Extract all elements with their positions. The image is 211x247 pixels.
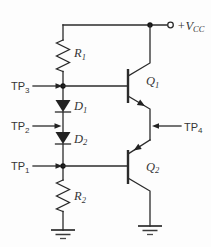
vcc-terminal-icon bbox=[168, 22, 174, 28]
tp3-label: TP3 bbox=[11, 80, 30, 95]
q1-label-main: Q bbox=[146, 74, 155, 88]
tp1-label-main: TP bbox=[11, 160, 25, 172]
ground-symbol-right bbox=[138, 226, 162, 235]
q2-label-sub: 2 bbox=[155, 165, 160, 175]
tp3-label-sub: 3 bbox=[25, 86, 30, 95]
r2-label-sub: 2 bbox=[82, 195, 87, 205]
test-point-tp2: TP2 bbox=[11, 120, 62, 135]
q2-collector-wire bbox=[128, 178, 150, 226]
resistor-r2-symbol bbox=[57, 180, 70, 212]
tp2-label-sub: 2 bbox=[25, 126, 30, 135]
d1-label: D1 bbox=[73, 99, 87, 115]
q1-collector-wire bbox=[128, 25, 150, 76]
d2-label-main: D bbox=[73, 132, 83, 146]
q1-label-sub: 1 bbox=[155, 80, 159, 90]
diode-d1: D1 bbox=[56, 99, 88, 115]
test-point-tp1: TP1 bbox=[11, 160, 66, 175]
tp4-arrowhead-icon bbox=[152, 123, 159, 129]
q1-emitter-arrow-icon bbox=[137, 99, 147, 108]
r1-label-sub: 1 bbox=[82, 52, 86, 62]
r2-label-main: R bbox=[73, 189, 82, 203]
tp2-label: TP2 bbox=[11, 120, 30, 135]
tp1-label-sub: 1 bbox=[25, 166, 30, 175]
vcc-label-main: +V bbox=[177, 19, 194, 33]
r1-label: R1 bbox=[73, 46, 86, 62]
resistor-r1: R1 bbox=[57, 40, 86, 72]
d2-label-sub: 2 bbox=[83, 137, 88, 147]
tp2-arrowhead-icon bbox=[55, 123, 62, 129]
q1-label: Q1 bbox=[146, 74, 159, 90]
q2-emitter-arrow-icon bbox=[132, 144, 142, 153]
transistor-q1: Q1 bbox=[63, 25, 159, 140]
transistor-q2: Q2 bbox=[63, 140, 160, 226]
d1-label-main: D bbox=[73, 99, 83, 113]
r2-label: R2 bbox=[73, 189, 87, 205]
vcc-label-sub: CC bbox=[193, 24, 205, 34]
vcc-label: +VCC bbox=[177, 19, 205, 35]
test-point-tp4: TP4 bbox=[152, 121, 203, 136]
q2-label-main: Q bbox=[146, 160, 155, 174]
diode-d1-symbol bbox=[56, 100, 71, 112]
tp3-label-main: TP bbox=[11, 80, 25, 92]
circuit-schematic-canvas: +VCC R1 TP3 D1 TP2 bbox=[0, 0, 211, 247]
d2-label: D2 bbox=[73, 132, 88, 148]
circuit-schematic: +VCC R1 TP3 D1 TP2 bbox=[0, 0, 211, 247]
power-rail: +VCC bbox=[63, 19, 205, 35]
d1-label-sub: 1 bbox=[83, 105, 87, 115]
tp2-label-main: TP bbox=[11, 120, 25, 132]
resistor-r1-symbol bbox=[57, 40, 70, 72]
q2-label: Q2 bbox=[146, 160, 160, 176]
resistor-r2: R2 bbox=[57, 180, 87, 212]
diode-d2-symbol bbox=[56, 132, 71, 144]
diode-d2: D2 bbox=[56, 132, 89, 148]
tp4-label-sub: 4 bbox=[198, 126, 203, 135]
tp4-label: TP4 bbox=[184, 121, 203, 136]
ground-symbol-left bbox=[51, 230, 75, 239]
tp4-label-main: TP bbox=[184, 121, 198, 133]
tp1-label: TP1 bbox=[11, 160, 30, 175]
test-point-tp3: TP3 bbox=[11, 80, 66, 95]
r1-label-main: R bbox=[73, 46, 82, 60]
